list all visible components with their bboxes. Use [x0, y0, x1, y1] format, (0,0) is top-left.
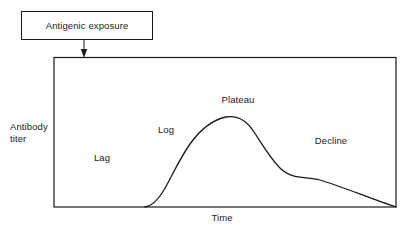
y-axis-label: Antibody titer [10, 121, 54, 144]
x-axis-label: Time [211, 212, 232, 223]
figure-canvas [0, 0, 407, 228]
phase-label-log: Log [158, 124, 174, 135]
exposure-callout-label: Antigenic exposure [46, 20, 129, 31]
exposure-arrow-head [81, 49, 87, 58]
plot-frame [54, 58, 396, 208]
phase-label-decline: Decline [315, 135, 347, 146]
phase-label-lag: Lag [94, 152, 110, 163]
phase-label-plateau: Plateau [222, 94, 255, 105]
antibody-response-figure: Antigenic exposure Antibody titer Time L… [0, 0, 407, 228]
